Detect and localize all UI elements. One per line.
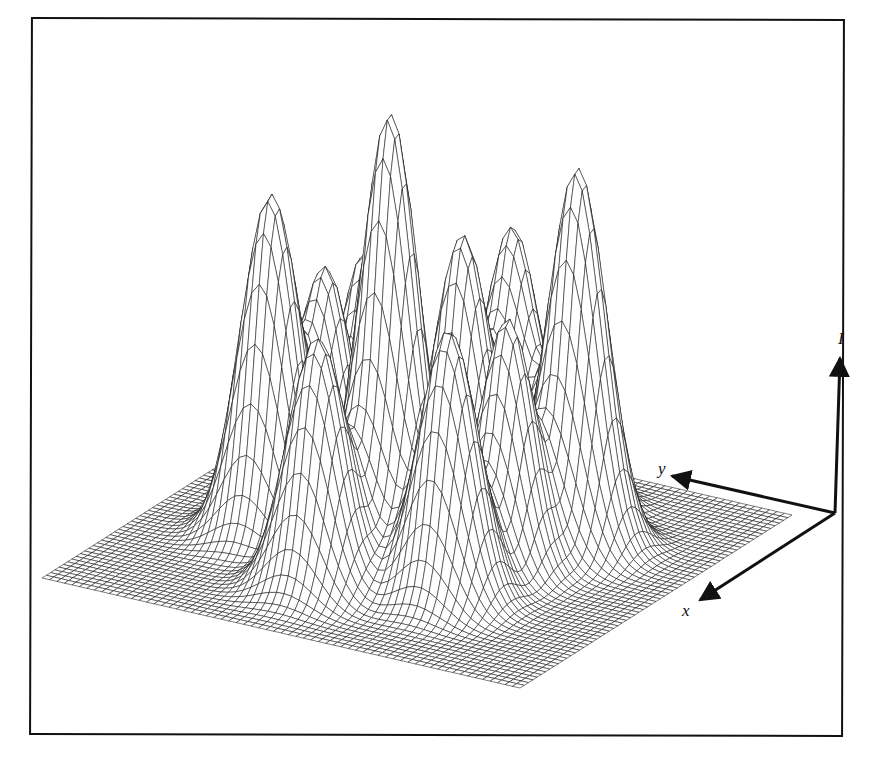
wireframe-mesh (42, 115, 792, 688)
intensity-axis-label: I (838, 330, 844, 347)
intensity-axis-arrow (835, 358, 840, 513)
y-axis-label: y (658, 460, 666, 477)
x-axis-label: x (682, 602, 690, 619)
surface-plot (0, 0, 876, 767)
